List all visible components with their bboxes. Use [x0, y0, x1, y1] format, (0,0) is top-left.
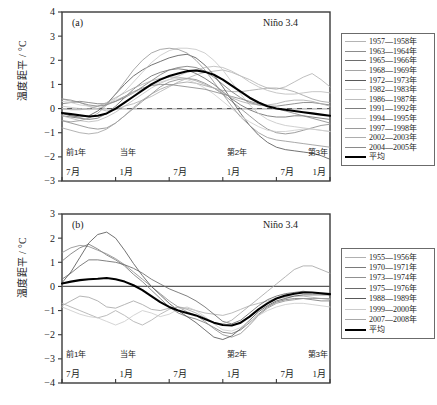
y-tick-label: 2 — [50, 233, 55, 244]
legend-line-swatch — [345, 51, 366, 52]
x-month-label: 1月 — [120, 167, 134, 177]
legend-item[interactable]: 2007—2008年 — [345, 314, 430, 324]
legend-item[interactable]: 1982—1983年 — [345, 85, 430, 95]
y-tick-label: −1 — [44, 127, 55, 138]
y-tick-label: −1 — [44, 305, 55, 316]
y-tick-label: −2 — [44, 329, 55, 340]
legend-item-label: 1970—1971年 — [369, 263, 417, 272]
x-month-label: 1月 — [120, 369, 134, 379]
legend-item-label: 平均 — [369, 325, 385, 334]
legend-item-label: 1955—1956年 — [369, 253, 417, 262]
x-month-label: 1月 — [227, 167, 241, 177]
y-tick-label: 1 — [50, 257, 55, 268]
panel-a-plot: 43210−1−2−3前1年当年第2年第3年7月1月7月1月7月1月 — [0, 0, 340, 203]
legend-line-swatch — [345, 156, 366, 158]
legend-item-label: 1997—1998年 — [369, 124, 417, 133]
legend-line-swatch — [345, 137, 366, 138]
legend-line-swatch — [345, 277, 366, 278]
legend-item[interactable]: 平均 — [345, 325, 430, 335]
legend-line-swatch — [345, 99, 366, 100]
legend-line-swatch — [345, 257, 366, 258]
legend-item[interactable]: 1991—1992年 — [345, 104, 430, 114]
panel-a-legend: 1957—1958年1963—1964年1965—1966年1968—1969年… — [341, 33, 435, 166]
x-month-label: 1月 — [227, 369, 241, 379]
legend-line-swatch — [345, 298, 366, 299]
legend-item-label: 1965—1966年 — [369, 56, 417, 65]
y-tick-label: −3 — [44, 353, 55, 364]
legend-item-label: 1968—1969年 — [369, 66, 417, 75]
panel-b-legend: 1955—1956年1970—1971年1973—1974年1975—1976年… — [341, 248, 435, 339]
panel-b-tag: (b) — [72, 219, 84, 230]
x-month-label: 1月 — [313, 167, 327, 177]
x-month-label: 7月 — [280, 167, 294, 177]
x-year-label: 第3年 — [308, 349, 328, 359]
legend-item[interactable]: 1957—1958年 — [345, 37, 430, 47]
y-tick-label: 0 — [50, 103, 55, 114]
legend-line-swatch — [345, 80, 366, 81]
x-year-label: 前1年 — [66, 349, 86, 359]
legend-line-swatch — [345, 128, 366, 129]
legend-item[interactable]: 1999—2000年 — [345, 304, 430, 314]
x-year-label: 第3年 — [308, 147, 328, 157]
x-month-label: 7月 — [66, 167, 80, 177]
legend-item[interactable]: 1994—1995年 — [345, 114, 430, 124]
legend-item-label: 1999—2000年 — [369, 305, 417, 314]
y-tick-label: 3 — [50, 208, 55, 219]
legend-item[interactable]: 1972—1973年 — [345, 75, 430, 85]
x-month-label: 7月 — [66, 369, 80, 379]
legend-item-label: 1972—1973年 — [369, 76, 417, 85]
x-month-label: 7月 — [173, 167, 187, 177]
legend-item-label: 1991—1992年 — [369, 104, 417, 113]
legend-item[interactable]: 平均 — [345, 152, 430, 162]
legend-item[interactable]: 1986—1987年 — [345, 95, 430, 105]
y-tick-label: −4 — [44, 377, 55, 388]
x-year-label: 第2年 — [227, 147, 247, 157]
y-tick-label: 3 — [50, 31, 55, 42]
legend-line-swatch — [345, 288, 366, 289]
x-month-label: 7月 — [280, 369, 294, 379]
legend-line-swatch — [345, 108, 366, 109]
x-year-label: 第2年 — [227, 349, 247, 359]
legend-item[interactable]: 2002—2003年 — [345, 133, 430, 143]
legend-item-label: 平均 — [369, 152, 385, 161]
legend-item[interactable]: 1970—1971年 — [345, 262, 430, 272]
legend-item[interactable]: 2004—2005年 — [345, 143, 430, 153]
legend-line-swatch — [345, 60, 366, 61]
legend-item-label: 1963—1964年 — [369, 47, 417, 56]
legend-item[interactable]: 1988—1989年 — [345, 294, 430, 304]
y-tick-label: 2 — [50, 55, 55, 66]
legend-item-label: 1994—1995年 — [369, 114, 417, 123]
x-year-label: 当年 — [120, 349, 136, 359]
x-year-label: 当年 — [120, 147, 136, 157]
legend-item-label: 2002—2003年 — [369, 133, 417, 142]
legend-item-label: 2007—2008年 — [369, 315, 417, 324]
legend-item-label: 1957—1958年 — [369, 37, 417, 46]
legend-item-label: 1973—1974年 — [369, 273, 417, 282]
x-year-label: 前1年 — [66, 147, 86, 157]
legend-item[interactable]: 1963—1964年 — [345, 47, 430, 57]
y-tick-label: −3 — [44, 175, 55, 186]
legend-item[interactable]: 1975—1976年 — [345, 283, 430, 293]
y-tick-label: −2 — [44, 151, 55, 162]
legend-item-label: 1975—1976年 — [369, 284, 417, 293]
y-tick-label: 4 — [50, 6, 55, 17]
legend-item[interactable]: 1955—1956年 — [345, 252, 430, 262]
panel-a-tag: (a) — [72, 17, 83, 28]
legend-item[interactable]: 1968—1969年 — [345, 66, 430, 76]
legend-item-label: 2004—2005年 — [369, 143, 417, 152]
legend-line-swatch — [345, 329, 366, 331]
x-month-label: 7月 — [173, 369, 187, 379]
legend-line-swatch — [345, 41, 366, 42]
panel-b-region-label: Niño 3.4 — [263, 219, 298, 230]
panel-b-plot: 3210−1−2−3−4前1年当年第2年第3年7月1月7月1月7月1月 — [0, 202, 340, 405]
legend-line-swatch — [345, 147, 366, 148]
y-tick-label: 1 — [50, 79, 55, 90]
legend-line-swatch — [345, 70, 366, 71]
legend-item[interactable]: 1973—1974年 — [345, 273, 430, 283]
legend-item[interactable]: 1965—1966年 — [345, 56, 430, 66]
panel-a: 温度距平 / °C 43210−1−2−3前1年当年第2年第3年7月1月7月1月… — [0, 0, 340, 203]
x-month-label: 1月 — [313, 369, 327, 379]
legend-item[interactable]: 1997—1998年 — [345, 123, 430, 133]
panel-b: 温度距平 / °C 3210−1−2−3−4前1年当年第2年第3年7月1月7月1… — [0, 202, 340, 405]
y-tick-label: 0 — [50, 281, 55, 292]
